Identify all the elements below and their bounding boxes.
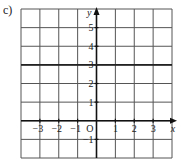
y-tick-label: 4 [89,41,94,52]
graph-figure: c) −3−2−112354321−1Oxy [0,0,183,165]
y-axis-label: y [86,7,92,18]
coordinate-grid: −3−2−112354321−1Oxy [0,0,183,165]
x-tick-label: −1 [70,123,81,134]
x-tick-label: −3 [33,123,44,134]
x-tick-label: −2 [51,123,62,134]
x-axis-label: x [170,123,176,134]
x-tick-label: 2 [132,123,137,134]
y-tick-label: 1 [89,97,94,108]
x-tick-label: 1 [113,123,118,134]
origin-label: O [86,123,93,134]
y-tick-label: −1 [83,134,94,145]
y-axis-arrow-icon [94,7,100,15]
y-tick-label: 2 [89,78,94,89]
y-tick-label: 3 [89,59,94,70]
y-tick-label: 5 [89,22,94,33]
x-tick-label: 3 [151,123,156,134]
